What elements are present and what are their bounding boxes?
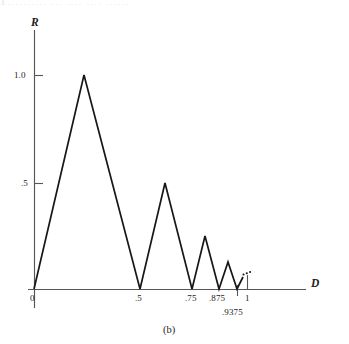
x-axis-label: D [311, 277, 319, 289]
figure-container: ............ ... .... .... ...... R D 1.… [0, 0, 349, 344]
plot-canvas [0, 0, 349, 344]
x-tick-label-0: 0 [30, 293, 35, 303]
x-tick-label-0.875: .875 [209, 293, 225, 303]
ellipsis-dot-2 [246, 272, 248, 274]
y-axis-label: R [31, 16, 39, 28]
x-tick-label-1: 1 [245, 293, 250, 303]
rate-distortion-curve [34, 75, 243, 289]
y-tick-label-0.5: .5 [21, 178, 28, 188]
ellipsis-dot-1 [242, 273, 244, 275]
x-tick-label-0.75: .75 [185, 293, 197, 303]
y-tick-label-1.0: 1.0 [14, 70, 26, 80]
x-tick-label-0.9375: .9375 [222, 307, 243, 317]
figure-caption: (b) [163, 324, 175, 335]
x-tick-label-0.5: .5 [135, 293, 142, 303]
ellipsis-dot-3 [249, 271, 251, 273]
